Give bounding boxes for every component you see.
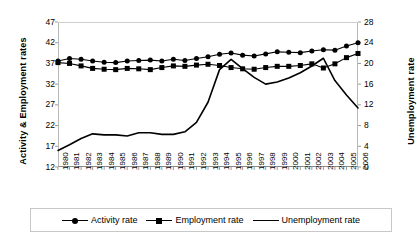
y-axis-left-tick-32: 32 [31,80,55,89]
legend-item-employment-rate[interactable]: Employment rate [146,215,243,225]
y-axis-right-tick-8: 8 [364,121,388,130]
y-axis-right-title: Unemployment rate [406,21,416,181]
x-axis-tick-1985: 1985 [119,140,127,170]
legend-item-unemployment-rate[interactable]: Unemployment rate [253,215,361,225]
x-axis-tick-1987: 1987 [142,140,150,170]
legend-label: Employment rate [175,215,243,225]
y-axis-left-tick-42: 42 [31,38,55,47]
x-axis-tick-2001: 2001 [304,140,312,170]
legend-swatch-diamond-icon [62,215,88,225]
x-axis-tick-1983: 1983 [96,140,104,170]
x-axis-tick-2004: 2004 [338,140,346,170]
x-axis-tick-2005: 2005 [350,140,358,170]
chart-legend: Activity rateEmployment rateUnemployment… [30,208,392,232]
x-axis-tick-1998: 1998 [269,140,277,170]
legend-label: Activity rate [91,215,138,225]
x-axis-tick-1984: 1984 [108,140,116,170]
y-axis-left-tick-47: 47 [31,18,55,27]
x-axis-tick-1992: 1992 [200,140,208,170]
legend-swatch-square-icon [146,215,172,225]
x-axis-tick-2003: 2003 [327,140,335,170]
legend-swatch-none-icon [253,215,279,225]
x-axis-tick-1994: 1994 [223,140,231,170]
x-axis-tick-1980: 1980 [62,140,70,170]
y-axis-left-tick-12: 12 [31,163,55,172]
x-axis-tick-1988: 1988 [154,140,162,170]
y-axis-right-tick-20: 20 [364,59,388,68]
x-axis-tick-1990: 1990 [177,140,185,170]
y-axis-right-tick-12: 12 [364,100,388,109]
y-axis-right-tick-28: 28 [364,18,388,27]
chart-container: Activity & Employment rates Unemployment… [0,0,417,238]
legend-item-activity-rate[interactable]: Activity rate [62,215,138,225]
x-axis-tick-1982: 1982 [85,140,93,170]
x-axis-tick-1999: 1999 [281,140,289,170]
y-axis-right-tick-16: 16 [364,80,388,89]
y-axis-left-title: Activity & Employment rates [18,21,28,181]
x-axis-tick-2002: 2002 [315,140,323,170]
x-axis-tick-1996: 1996 [246,140,254,170]
y-axis-left-tick-17: 17 [31,142,55,151]
x-axis-tick-2000: 2000 [292,140,300,170]
y-axis-right-tick-24: 24 [364,38,388,47]
x-axis-tick-1993: 1993 [212,140,220,170]
x-axis-tick-1997: 1997 [258,140,266,170]
y-axis-left-tick-27: 27 [31,100,55,109]
x-axis-tick-1986: 1986 [131,140,139,170]
y-axis-left-tick-22: 22 [31,121,55,130]
y-axis-left-tick-37: 37 [31,59,55,68]
x-axis-tick-1991: 1991 [188,140,196,170]
x-axis-tick-2006: 2006 [362,140,370,170]
legend-label: Unemployment rate [282,215,361,225]
x-axis-tick-1981: 1981 [73,140,81,170]
x-axis-tick-1995: 1995 [235,140,243,170]
x-axis-tick-1989: 1989 [165,140,173,170]
